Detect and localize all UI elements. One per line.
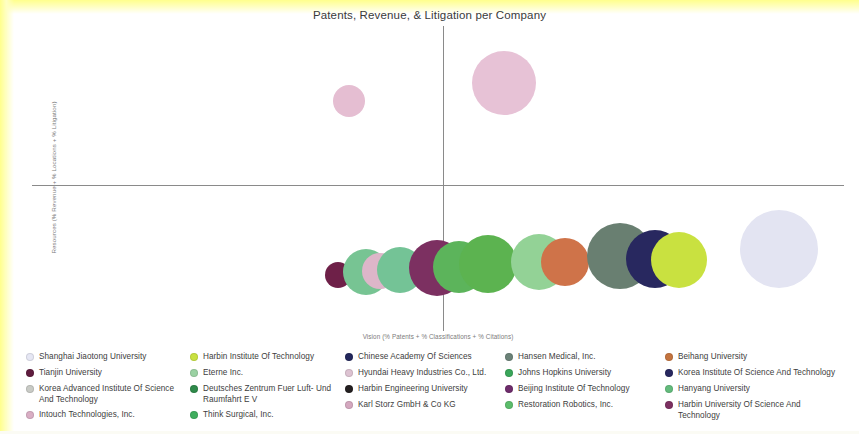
chart-title: Patents, Revenue, & Litigation per Compa… [0,9,859,21]
legend-label: Chinese Academy Of Sciences [358,352,472,363]
bubble-point[interactable] [472,51,536,115]
legend-item[interactable]: Harbin University Of Science And Technol… [665,400,840,421]
legend-swatch-icon [190,369,198,377]
legend-label: Beijing Institute Of Technology [518,384,630,395]
legend-swatch-icon [505,369,513,377]
legend-label: Harbin Institute Of Technology [203,352,314,363]
legend-swatch-icon [26,411,34,419]
chart-legend: Shanghai Jiaotong UniversityTianjin Univ… [26,352,846,421]
legend-item[interactable]: Think Surgical, Inc. [190,410,345,421]
legend-column: Chinese Academy Of SciencesHyundai Heavy… [345,352,505,421]
legend-item[interactable]: Korea Advanced Institute Of Science And … [26,384,190,405]
legend-swatch-icon [26,369,34,377]
legend-swatch-icon [345,353,353,361]
legend-swatch-icon [345,401,353,409]
legend-column: Hansen Medical, Inc.Johns Hopkins Univer… [505,352,665,421]
legend-column: Harbin Institute Of TechnologyEterne Inc… [190,352,345,421]
legend-swatch-icon [505,353,513,361]
legend-swatch-icon [345,369,353,377]
legend-item[interactable]: Harbin Engineering University [345,384,505,395]
legend-item[interactable]: Eterne Inc. [190,368,345,379]
legend-label: Beihang University [678,352,747,363]
legend-swatch-icon [505,385,513,393]
legend-item[interactable]: Beijing Institute Of Technology [505,384,665,395]
legend-label: Harbin University Of Science And Technol… [678,400,840,421]
bubble-point[interactable] [541,238,589,286]
legend-swatch-icon [665,369,673,377]
legend-swatch-icon [26,353,34,361]
legend-swatch-icon [665,353,673,361]
x-axis-label: Vision (% Patents + % Classifications + … [32,333,844,340]
legend-item[interactable]: Chinese Academy Of Sciences [345,352,505,363]
legend-label: Restoration Robotics, Inc. [518,400,613,411]
legend-label: Karl Storz GmbH & Co KG [358,400,456,411]
legend-item[interactable]: Harbin Institute Of Technology [190,352,345,363]
legend-swatch-icon [505,401,513,409]
page-frame-left-gradient [0,0,14,434]
legend-item[interactable]: Karl Storz GmbH & Co KG [345,400,505,411]
legend-label: Hyundai Heavy Industries Co., Ltd. [358,368,486,379]
legend-label: Hanyang University [678,384,750,395]
legend-label: Hansen Medical, Inc. [518,352,595,363]
chart-page: Patents, Revenue, & Litigation per Compa… [0,0,859,434]
legend-swatch-icon [345,385,353,393]
legend-label: Deutsches Zentrum Fuer Luft- Und Raumfah… [203,384,345,405]
legend-label: Think Surgical, Inc. [203,410,274,421]
legend-column: Shanghai Jiaotong UniversityTianjin Univ… [26,352,190,421]
legend-label: Korea Institute Of Science And Technolog… [678,368,835,379]
x-axis-line [32,185,844,186]
legend-swatch-icon [190,385,198,393]
legend-item[interactable]: Hyundai Heavy Industries Co., Ltd. [345,368,505,379]
legend-swatch-icon [26,385,34,393]
legend-swatch-icon [665,385,673,393]
legend-item[interactable]: Korea Institute Of Science And Technolog… [665,368,840,379]
y-axis-label: Resources (% Revenue + % Locations + % L… [50,63,57,293]
legend-column: Beihang UniversityKorea Institute Of Sci… [665,352,840,421]
legend-label: Shanghai Jiaotong University [39,352,146,363]
legend-label: Korea Advanced Institute Of Science And … [39,384,190,405]
legend-item[interactable]: Shanghai Jiaotong University [26,352,190,363]
legend-item[interactable]: Johns Hopkins University [505,368,665,379]
bubble-point[interactable] [333,85,365,117]
legend-label: Intouch Technologies, Inc. [39,410,135,421]
legend-label: Harbin Engineering University [358,384,468,395]
legend-item[interactable]: Beihang University [665,352,840,363]
legend-item[interactable]: Tianjin University [26,368,190,379]
plot-area: Resources (% Revenue + % Locations + % L… [32,26,844,331]
bubble-point[interactable] [459,235,517,293]
legend-item[interactable]: Deutsches Zentrum Fuer Luft- Und Raumfah… [190,384,345,405]
legend-item[interactable]: Intouch Technologies, Inc. [26,410,190,421]
legend-label: Eterne Inc. [203,368,243,379]
legend-swatch-icon [665,401,673,409]
bubble-point[interactable] [651,232,707,288]
legend-label: Johns Hopkins University [518,368,611,379]
legend-swatch-icon [190,411,198,419]
legend-item[interactable]: Hanyang University [665,384,840,395]
bubble-point[interactable] [740,210,818,288]
legend-item[interactable]: Hansen Medical, Inc. [505,352,665,363]
legend-item[interactable]: Restoration Robotics, Inc. [505,400,665,411]
legend-label: Tianjin University [39,368,102,379]
legend-swatch-icon [190,353,198,361]
